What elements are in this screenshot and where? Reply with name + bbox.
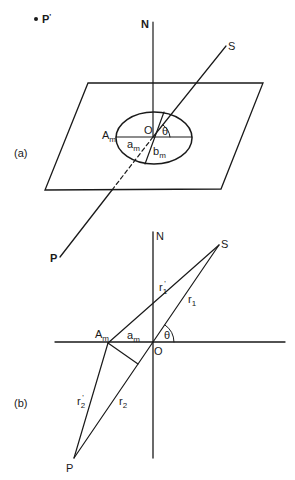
source-label: S xyxy=(228,40,235,52)
receiver-label-b: P xyxy=(66,462,73,474)
p-prime-label: P' xyxy=(42,12,51,25)
receiver-ray xyxy=(60,190,112,257)
panel-b-label: (b) xyxy=(14,397,27,409)
receiver-label: P xyxy=(50,252,57,264)
r1-label: r1 xyxy=(188,293,197,308)
perpendicular-line xyxy=(108,343,138,364)
r2-label: r2 xyxy=(119,395,128,410)
theta-label-b: θ xyxy=(164,329,170,341)
scattering-ellipse-diagram: P' N S P θ O Am am bm (a) N xyxy=(0,0,295,480)
r2-prime-label: r2' xyxy=(77,393,86,410)
panel-a: P' N S P θ O Am am bm (a) xyxy=(14,12,263,264)
panel-a-label: (a) xyxy=(14,147,27,159)
north-label: N xyxy=(141,18,149,30)
panel-b: N θ S P O Am am r1' r1 r2' r2 (b) xyxy=(14,230,285,474)
r2-line xyxy=(74,342,153,458)
theta-label: θ xyxy=(162,125,168,137)
source-ray xyxy=(153,46,226,137)
vertex-label: Am xyxy=(102,129,116,144)
origin-label: O xyxy=(144,124,153,136)
p-prime-point xyxy=(34,17,38,21)
semi-major-label: am xyxy=(127,138,140,153)
origin-label-b: O xyxy=(154,345,163,357)
north-label-b: N xyxy=(156,230,164,242)
source-label-b: S xyxy=(221,238,228,250)
semi-minor-label: bm xyxy=(153,145,166,160)
vertex-label-b: Am xyxy=(95,328,109,343)
r1-prime-label: r1' xyxy=(159,279,168,296)
